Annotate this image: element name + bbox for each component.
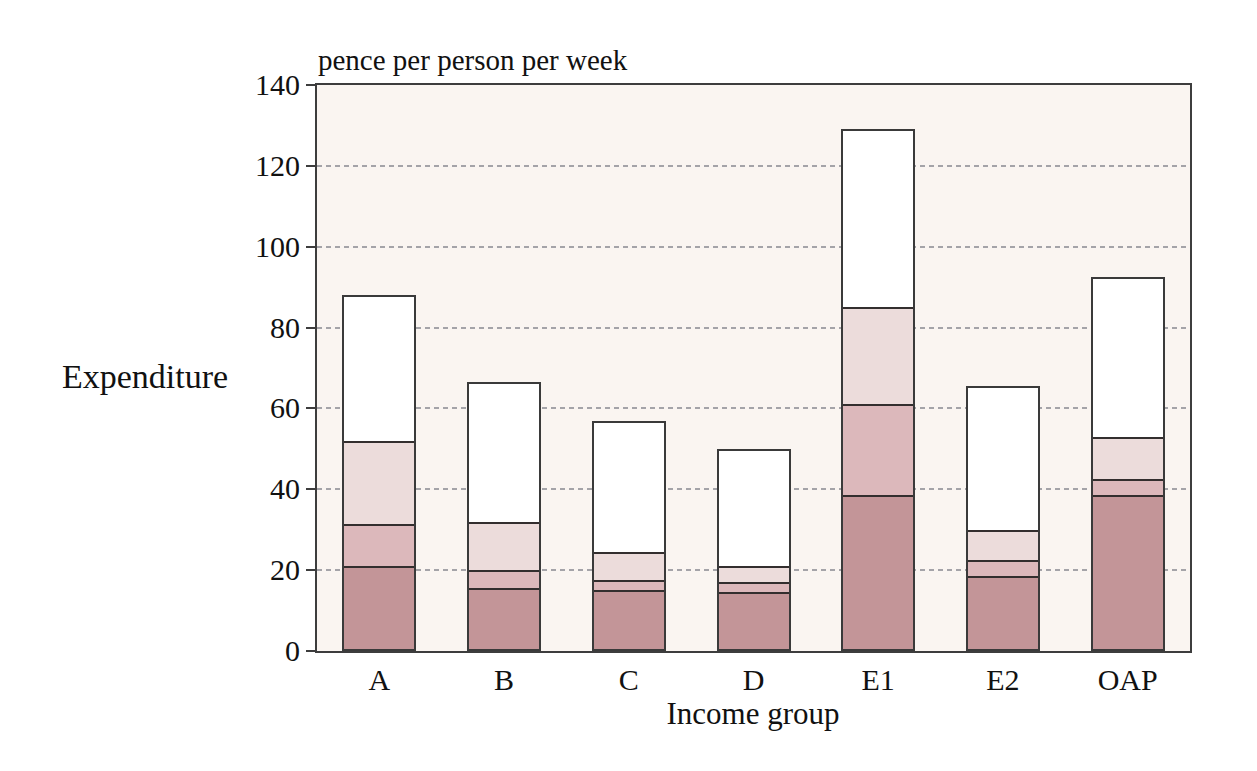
- bar-A-segment-4-top-white: [344, 297, 414, 441]
- x-label-B: B: [434, 663, 574, 697]
- x-label-E2: E2: [933, 663, 1073, 697]
- axis-units-label: pence per person per week: [318, 44, 627, 77]
- bar-A-segment-3-light-pink: [344, 441, 414, 524]
- y-axis-title: Expenditure: [62, 358, 228, 396]
- bar-E1-segment-2-medium-pink: [843, 404, 913, 495]
- bar-A: [342, 295, 416, 651]
- y-tick-label-0: 0: [190, 635, 300, 667]
- y-tick-80: [306, 327, 315, 329]
- bar-C: [592, 421, 666, 651]
- bar-C-segment-1-bottom-dark-pink: [594, 590, 664, 649]
- bar-D-segment-1-bottom-dark-pink: [719, 592, 789, 649]
- y-tick-label-20: 20: [190, 554, 300, 586]
- x-label-E1: E1: [808, 663, 948, 697]
- x-label-D: D: [684, 663, 824, 697]
- bar-B: [467, 382, 541, 651]
- bar-D: [717, 449, 791, 651]
- bar-B-segment-3-light-pink: [469, 522, 539, 571]
- bar-B-segment-1-bottom-dark-pink: [469, 588, 539, 649]
- bar-OAP: [1091, 277, 1165, 651]
- bar-D-segment-3-light-pink: [719, 566, 789, 582]
- gridline-120: [317, 165, 1190, 167]
- y-tick-label-40: 40: [190, 473, 300, 505]
- bar-D-segment-2-medium-pink: [719, 582, 789, 592]
- bar-E2-segment-1-bottom-dark-pink: [968, 576, 1038, 649]
- bar-C-segment-4-top-white: [594, 423, 664, 552]
- y-tick-label-100: 100: [190, 231, 300, 263]
- x-axis-title: Income group: [603, 696, 903, 732]
- bar-OAP-segment-2-medium-pink: [1093, 479, 1163, 495]
- y-tick-0: [306, 650, 315, 652]
- bar-E1-segment-3-light-pink: [843, 307, 913, 404]
- bar-E1-segment-4-top-white: [843, 131, 913, 307]
- bar-A-segment-2-medium-pink: [344, 524, 414, 566]
- gridline-60: [317, 407, 1190, 409]
- gridline-80: [317, 327, 1190, 329]
- y-tick-label-80: 80: [190, 312, 300, 344]
- plot-area: [315, 83, 1192, 653]
- x-label-OAP: OAP: [1058, 663, 1198, 697]
- x-label-A: A: [309, 663, 449, 697]
- bar-C-segment-2-medium-pink: [594, 580, 664, 590]
- bar-E2-segment-4-top-white: [968, 388, 1038, 530]
- y-tick-40: [306, 488, 315, 490]
- y-tick-label-140: 140: [190, 69, 300, 101]
- y-tick-120: [306, 165, 315, 167]
- x-label-C: C: [559, 663, 699, 697]
- bar-E2: [966, 386, 1040, 651]
- bar-B-segment-2-medium-pink: [469, 570, 539, 588]
- bar-OAP-segment-4-top-white: [1093, 279, 1163, 437]
- bar-E1: [841, 129, 915, 651]
- expenditure-stacked-bar-chart: pence per person per week Expenditure 02…: [0, 0, 1257, 771]
- y-tick-60: [306, 407, 315, 409]
- y-tick-20: [306, 569, 315, 571]
- bar-OAP-segment-3-light-pink: [1093, 437, 1163, 479]
- y-tick-label-120: 120: [190, 150, 300, 182]
- bar-D-segment-4-top-white: [719, 451, 789, 566]
- y-tick-100: [306, 246, 315, 248]
- bar-A-segment-1-bottom-dark-pink: [344, 566, 414, 649]
- bar-B-segment-4-top-white: [469, 384, 539, 522]
- gridline-100: [317, 246, 1190, 248]
- y-tick-label-60: 60: [190, 392, 300, 424]
- bar-OAP-segment-1-bottom-dark-pink: [1093, 495, 1163, 649]
- bar-C-segment-3-light-pink: [594, 552, 664, 580]
- bar-E2-segment-3-light-pink: [968, 530, 1038, 560]
- bar-E2-segment-2-medium-pink: [968, 560, 1038, 576]
- bar-E1-segment-1-bottom-dark-pink: [843, 495, 913, 649]
- y-tick-140: [306, 84, 315, 86]
